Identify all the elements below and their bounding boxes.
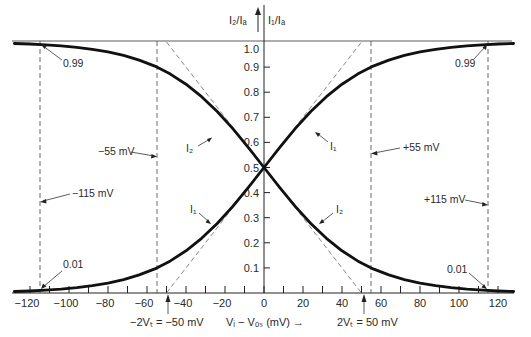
x-tick-label: 20 <box>297 297 309 309</box>
y-tick-label: 0.1 <box>244 262 259 274</box>
x-tick-label: 60 <box>375 297 387 309</box>
y-tick-label: 1.0 <box>244 43 259 55</box>
leader-plus-55mv <box>374 148 400 153</box>
label-plus-115mv: +115 mV <box>424 193 466 205</box>
leader-0.99-right <box>474 47 485 59</box>
x-axis-label: Vᵢ − Vₒₛ (mV) → <box>226 316 304 328</box>
up-arrow-icon <box>255 7 261 15</box>
pos-2vt-label: 2Vₜ = 50 mV <box>337 316 398 328</box>
y-tick-label: 0.9 <box>244 61 259 73</box>
leader-i2-lower <box>322 213 333 222</box>
arrowhead-icon <box>482 202 488 207</box>
y-tick-label: 0.8 <box>244 86 259 98</box>
label-i2-lower: I₂ <box>336 203 343 215</box>
annotation-0.01-left: 0.01 <box>63 258 84 270</box>
y-tick-label: 0.5 <box>244 162 259 174</box>
y-label-left: I₂/Iₐ <box>229 14 247 26</box>
x-tick-label: 0 <box>261 297 267 309</box>
y-tick-label: 0.3 <box>244 212 259 224</box>
y-tick-label: 0.7 <box>244 111 259 123</box>
leader-minus-115mv <box>43 194 70 201</box>
annotation-0.99-left: 0.99 <box>63 57 84 69</box>
x-tick-label: 80 <box>414 297 426 309</box>
neg-2vt-label: −2Vₜ = −50 mV <box>130 316 204 328</box>
leader-0.01-left <box>43 271 62 287</box>
x-tick-label: 100 <box>450 297 468 309</box>
label-plus-55mv: +55 mV <box>403 141 439 153</box>
label-i2-upper: I₂ <box>186 142 193 154</box>
leader-plus-115mv <box>465 200 485 204</box>
arrowhead-icon <box>151 154 157 159</box>
label-minus-55mv: −55 mV <box>98 145 134 157</box>
label-i1-lower: I₁ <box>190 203 197 215</box>
x-tick-label: −20 <box>213 297 232 309</box>
arrowhead-icon <box>371 151 378 156</box>
annotation-0.99-right: 0.99 <box>455 57 476 69</box>
x-axis-ticks <box>30 286 498 293</box>
y-label-right: I₁/Iₐ <box>268 14 286 26</box>
up-arrow-icon <box>166 294 171 302</box>
x-tick-label: −60 <box>135 297 154 309</box>
chart-container: −120−100−80−60−40−20020406080100120 0.10… <box>0 0 531 337</box>
arrowhead-icon <box>319 219 325 224</box>
x-tick-label: 40 <box>336 297 348 309</box>
y-tick-label: 0.2 <box>244 237 259 249</box>
arrowhead-icon <box>315 132 321 137</box>
x-tick-label: −80 <box>96 297 115 309</box>
leader-0.99-left <box>43 46 62 60</box>
x-axis-tick-labels: −120−100−80−60−40−20020406080100120 <box>15 297 508 309</box>
x-tick-label: −100 <box>54 297 79 309</box>
x-tick-label: −120 <box>15 297 40 309</box>
annotation-0.01-right: 0.01 <box>447 263 468 275</box>
label-minus-115mv: −115 mV <box>72 187 114 199</box>
label-i1-upper: I₁ <box>330 140 337 152</box>
arrowhead-icon <box>207 138 212 143</box>
x-tick-label: −40 <box>174 297 193 309</box>
transfer-characteristic-plot: −120−100−80−60−40−20020406080100120 0.10… <box>0 0 531 337</box>
arrowhead-icon <box>40 199 47 204</box>
leader-i1-upper <box>318 134 328 142</box>
leader-0.01-right <box>469 273 485 287</box>
up-arrow-icon <box>362 294 367 302</box>
x-tick-label: 120 <box>489 297 507 309</box>
